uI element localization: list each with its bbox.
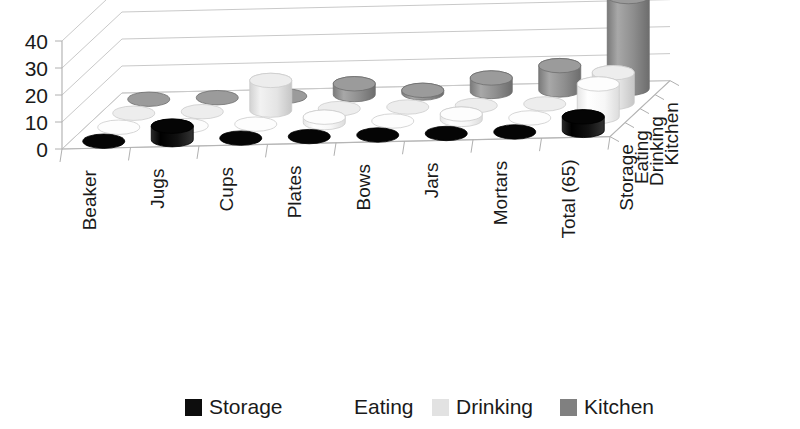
cylinder-bar bbox=[288, 129, 330, 143]
cylinder-bar bbox=[151, 119, 193, 147]
legend-swatch bbox=[432, 399, 449, 416]
x-axis-category-label: Beaker bbox=[79, 169, 100, 230]
cylinder-bar bbox=[113, 106, 155, 120]
cylinder-bar bbox=[562, 110, 604, 138]
depth-axis-label: Kitchen bbox=[661, 102, 682, 165]
cylinder-bar bbox=[494, 125, 536, 139]
cylinder-bar bbox=[83, 134, 125, 148]
cylinder-bar bbox=[250, 73, 292, 117]
legend-swatch bbox=[330, 399, 347, 416]
y-axis-labels: 403020100 bbox=[25, 30, 48, 161]
x-axis-category-label: Mortars bbox=[490, 161, 511, 225]
legend-item: Kitchen bbox=[560, 395, 654, 418]
cylinder-bar bbox=[98, 120, 140, 134]
cylinder-bar bbox=[357, 128, 399, 142]
cylinder-bar bbox=[303, 110, 345, 130]
x-axis-category-label: Plates bbox=[284, 165, 305, 218]
legend-item: Drinking bbox=[432, 395, 533, 418]
y-axis-tick-label: 30 bbox=[25, 57, 48, 80]
cylinder-bar bbox=[220, 131, 262, 145]
y-axis-tick-label: 10 bbox=[25, 111, 48, 134]
cylinder-3d-chart: 403020100 BeakerJugsCupsPlatesBowsJarsMo… bbox=[0, 0, 800, 429]
x-axis-labels: BeakerJugsCupsPlatesBowsJarsMortarsTotal… bbox=[79, 159, 580, 238]
x-axis-category-label: Jars bbox=[421, 162, 442, 198]
cylinder-bar bbox=[235, 117, 277, 131]
chart-legend: StorageEatingDrinkingKitchen bbox=[185, 395, 654, 418]
x-axis-category-label: Bows bbox=[353, 164, 374, 210]
cylinder-bar bbox=[470, 71, 512, 99]
cylinder-bar bbox=[524, 97, 566, 111]
x-axis-category-label: Total (65) bbox=[558, 159, 579, 238]
y-axis-tick-label: 20 bbox=[25, 84, 48, 107]
x-axis-category-label: Jugs bbox=[147, 169, 168, 209]
legend-item: Eating bbox=[330, 395, 414, 418]
chart-container: 403020100 BeakerJugsCupsPlatesBowsJarsMo… bbox=[0, 0, 800, 429]
legend-item: Storage bbox=[185, 395, 283, 418]
cylinder-bar bbox=[372, 114, 414, 128]
cylinder-bar bbox=[333, 77, 375, 102]
cylinder-bar bbox=[128, 92, 170, 106]
cylinder-bar bbox=[181, 104, 223, 118]
cylinder-bar bbox=[387, 100, 429, 114]
cylinder-bar bbox=[539, 58, 581, 97]
cylinder-bar bbox=[509, 111, 551, 125]
cylinder-bar bbox=[425, 126, 467, 140]
legend-swatch bbox=[560, 399, 577, 416]
y-axis-tick-label: 40 bbox=[25, 30, 48, 53]
cylinder-bar bbox=[402, 83, 444, 100]
legend-label: Storage bbox=[209, 395, 283, 418]
legend-label: Eating bbox=[354, 395, 414, 418]
y-axis-tick-label: 0 bbox=[36, 138, 48, 161]
cylinder-bar bbox=[440, 107, 482, 127]
cylinder-bar bbox=[196, 90, 238, 104]
legend-label: Drinking bbox=[456, 395, 533, 418]
legend-swatch bbox=[185, 399, 202, 416]
x-axis-category-label: Cups bbox=[216, 167, 237, 211]
legend-label: Kitchen bbox=[584, 395, 654, 418]
